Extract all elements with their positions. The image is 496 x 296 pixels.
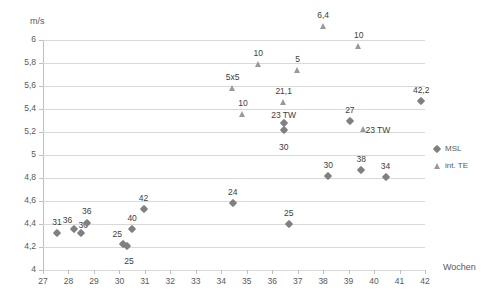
data-point-label: 10 (238, 98, 247, 108)
triangle-marker-icon (320, 23, 326, 29)
diamond-marker-icon (123, 242, 131, 250)
marker-glyph (433, 144, 441, 152)
data-point-label: 42 (139, 193, 148, 203)
triangle-marker-icon (355, 43, 361, 49)
y-axis-tick-label: 4 (31, 264, 36, 274)
x-axis-tick (298, 270, 299, 274)
plot-area: 3136303625254042242523 TW303027383442,25… (43, 40, 425, 270)
data-point-label: 36 (63, 215, 72, 225)
x-axis-tick (196, 270, 197, 274)
y-axis-tick (39, 201, 43, 202)
data-point-label: 5x5 (226, 72, 240, 82)
data-point-label: 25 (284, 208, 293, 218)
data-point-label: 21,1 (275, 86, 292, 96)
gridline (43, 63, 425, 64)
y-axis-tick-label: 5,6 (24, 80, 36, 90)
triangle-marker-icon (239, 111, 245, 117)
gridline (43, 247, 425, 248)
x-axis-tick-label: 31 (134, 276, 156, 286)
x-axis-tick-label: 34 (210, 276, 232, 286)
y-axis-tick-label: 5,4 (24, 103, 36, 113)
data-point-label: 6,4 (317, 10, 329, 20)
x-axis-tick (247, 270, 248, 274)
triangle-marker-icon (229, 85, 235, 91)
x-axis-tick-label: 36 (261, 276, 283, 286)
x-axis-tick (145, 270, 146, 274)
y-axis-tick (39, 86, 43, 87)
data-point-label: 10 (253, 48, 262, 58)
x-axis-tick (374, 270, 375, 274)
legend-item[interactable]: int. TE (432, 157, 468, 174)
triangle-marker-icon (255, 61, 261, 67)
x-axis-tick-label: 40 (363, 276, 385, 286)
gridline (43, 178, 425, 179)
triangle-marker-icon (294, 67, 300, 73)
diamond-marker-icon (53, 229, 61, 237)
data-point-label: 25 (112, 229, 121, 239)
diamond-marker-icon (139, 205, 147, 213)
diamond-marker-icon (381, 173, 389, 181)
x-axis-tick (170, 270, 171, 274)
legend-label: int. TE (445, 161, 468, 170)
x-axis-tick-label: 39 (338, 276, 360, 286)
data-point-label: 24 (228, 187, 237, 197)
data-point-label: 10 (354, 30, 363, 40)
legend-item[interactable]: MSL (432, 140, 468, 157)
y-axis-tick (39, 40, 43, 41)
diamond-marker-icon (128, 224, 136, 232)
x-axis-tick (94, 270, 95, 274)
y-axis-tick (39, 224, 43, 225)
y-axis-tick-label: 5,2 (24, 126, 36, 136)
x-axis-tick (119, 270, 120, 274)
y-axis-tick-label: 5,8 (24, 57, 36, 67)
y-axis-title: m/s (30, 16, 45, 26)
y-axis-tick (39, 178, 43, 179)
data-point-label: 23 TW (365, 125, 390, 135)
data-point-label: 36 (82, 206, 91, 216)
x-axis-title: Wochen (443, 262, 476, 272)
chart-container: m/s Wochen 3136303625254042242523 TW3030… (0, 0, 496, 296)
x-axis-tick (43, 270, 44, 274)
diamond-marker-icon (357, 166, 365, 174)
x-axis-tick-label: 37 (287, 276, 309, 286)
data-point-label: 30 (279, 142, 288, 152)
diamond-marker-icon (432, 144, 442, 154)
gridline (43, 270, 425, 271)
x-axis-tick (349, 270, 350, 274)
x-axis-tick-label: 38 (312, 276, 334, 286)
marker-glyph (434, 163, 440, 169)
x-axis-tick (400, 270, 401, 274)
diamond-marker-icon (285, 220, 293, 228)
x-axis-tick (425, 270, 426, 274)
x-axis-tick-label: 35 (236, 276, 258, 286)
x-axis-tick (221, 270, 222, 274)
x-axis-tick-label: 29 (83, 276, 105, 286)
triangle-marker-icon (280, 99, 286, 105)
x-axis-tick-label: 30 (108, 276, 130, 286)
y-axis-tick-label: 4,4 (24, 218, 36, 228)
chart-legend: MSLint. TE (432, 140, 468, 174)
y-axis-tick-label: 4,2 (24, 241, 36, 251)
gridline (43, 224, 425, 225)
data-point-label: 23 TW (271, 110, 296, 120)
data-point-label: 31 (52, 217, 61, 227)
x-axis-tick (272, 270, 273, 274)
diamond-marker-icon (417, 97, 425, 105)
x-axis-tick (323, 270, 324, 274)
y-axis-tick (39, 132, 43, 133)
gridline (43, 109, 425, 110)
y-axis-tick (39, 155, 43, 156)
x-axis-tick-label: 41 (389, 276, 411, 286)
x-axis-tick-label: 32 (159, 276, 181, 286)
y-axis-tick-label: 4,8 (24, 172, 36, 182)
data-point-label: 38 (357, 154, 366, 164)
y-axis-tick (39, 63, 43, 64)
x-axis-tick-label: 42 (414, 276, 436, 286)
diamond-marker-icon (77, 229, 85, 237)
x-axis-tick-label: 27 (32, 276, 54, 286)
data-point-label: 34 (381, 161, 390, 171)
diamond-marker-icon (346, 116, 354, 124)
y-axis-tick-label: 5 (31, 149, 36, 159)
gridline (43, 155, 425, 156)
legend-label: MSL (445, 144, 461, 153)
